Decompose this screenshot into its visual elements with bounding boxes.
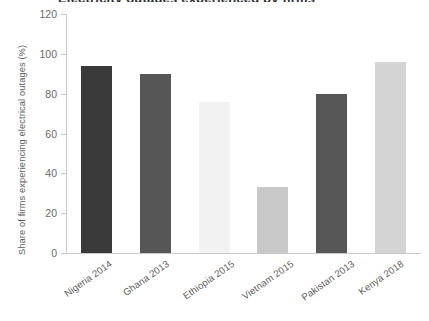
x-tick-label: Ethiopia 2015 <box>181 258 236 301</box>
bar-ghana-2013 <box>140 74 171 253</box>
x-tick-label: Kenya 2018 <box>356 258 405 297</box>
y-tick-label: 40 <box>17 167 57 179</box>
bar-pakistan-2013 <box>316 94 347 253</box>
y-tick-label: 100 <box>17 48 57 60</box>
bar-chart: Electricity outages experienced by firms… <box>0 0 429 321</box>
y-tick-label: 60 <box>17 128 57 140</box>
y-tick-label: 0 <box>17 247 57 259</box>
y-tick-mark <box>61 134 66 135</box>
chart-title: Electricity outages experienced by firms <box>58 0 315 2</box>
y-tick-mark <box>61 94 66 95</box>
bar-ethiopia-2015 <box>199 102 230 253</box>
y-axis-title: Share of firms experiencing electrical o… <box>17 45 27 255</box>
x-tick-label: Nigeria 2014 <box>62 258 114 299</box>
y-tick-mark <box>61 213 66 214</box>
y-tick-mark <box>61 253 66 254</box>
bar-vietnam-2015 <box>257 187 288 253</box>
y-tick-mark <box>61 54 66 55</box>
y-tick-label: 120 <box>17 8 57 20</box>
bar-nigeria-2014 <box>81 66 112 253</box>
y-tick-label: 80 <box>17 88 57 100</box>
x-tick-label: Pakistan 2013 <box>299 258 356 303</box>
x-axis-line <box>66 253 421 254</box>
x-tick-label: Vietnam 2015 <box>240 258 296 302</box>
y-tick-mark <box>61 14 66 15</box>
x-tick-label: Ghana 2013 <box>121 258 171 298</box>
bars-layer <box>67 14 420 253</box>
y-tick-label: 20 <box>17 207 57 219</box>
bar-kenya-2018 <box>375 62 406 253</box>
y-tick-mark <box>61 173 66 174</box>
